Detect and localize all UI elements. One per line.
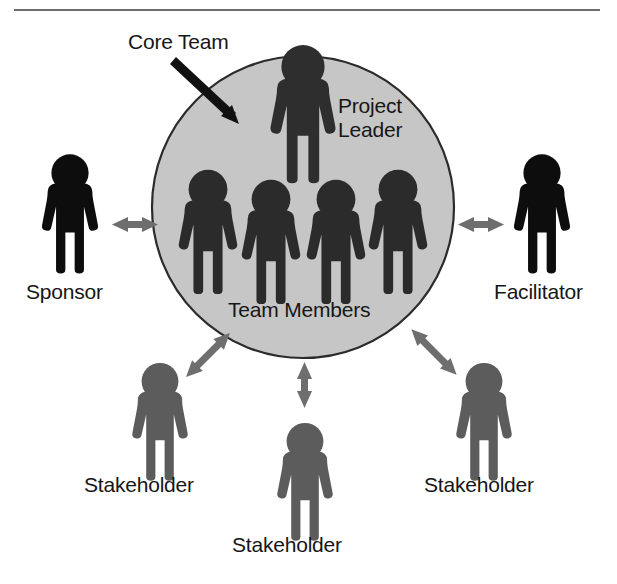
project-leader-label-line-1: Project	[338, 94, 402, 118]
stakeholder-left-core-team-arrow	[181, 328, 235, 382]
stakeholder-center-label: Stakeholder	[232, 533, 342, 557]
stakeholder-right-core-team-arrow	[406, 324, 462, 380]
sponsor-figure	[42, 154, 98, 273]
facilitator-label: Facilitator	[494, 280, 583, 304]
stakeholder-right-label: Stakeholder	[424, 473, 534, 497]
stakeholder-left-label: Stakeholder	[84, 473, 194, 497]
diagram-canvas: Core Team Project Leader Team Members Sp…	[0, 0, 617, 584]
facilitator-figure	[514, 154, 570, 273]
sponsor-label: Sponsor	[26, 280, 103, 304]
team-members-label: Team Members	[228, 298, 370, 322]
project-leader-label-line-2: Leader	[338, 118, 402, 142]
stakeholder-center-figure	[277, 423, 333, 541]
stakeholder-left-figure	[132, 363, 188, 481]
facilitator-core-team-arrow	[458, 217, 504, 232]
stakeholder-center-core-team-arrow	[297, 362, 312, 408]
stakeholder-right-figure	[456, 363, 512, 481]
project-leader-label: Project Leader	[338, 94, 402, 142]
sponsor-core-team-arrow	[112, 217, 158, 232]
core-team-label: Core Team	[128, 30, 229, 54]
